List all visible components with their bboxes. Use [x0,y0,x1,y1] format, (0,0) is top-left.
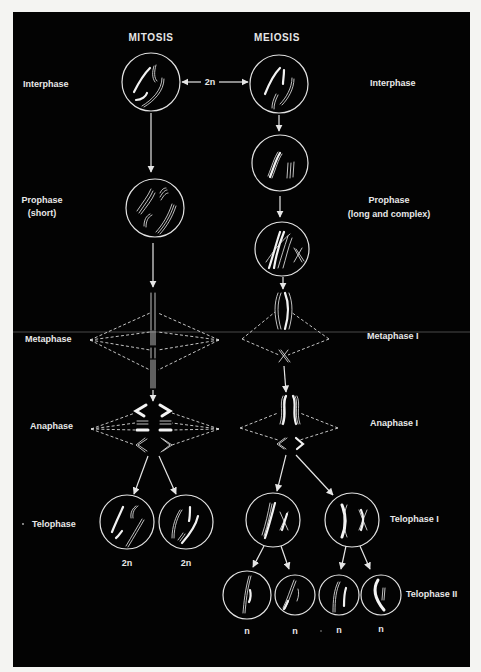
meiosis-interphase-cell [250,55,308,113]
meiosis-daughter-ploidy-3: n [336,625,342,635]
meiosis-telophase-1-cell-1 [246,493,300,547]
label-meiosis-telophase-1: Telophase I [390,514,439,524]
meiosis-title: MEIOSIS [254,32,300,43]
arrow-mitosis-right [159,456,176,494]
mitosis-metaphase-spindle [90,293,219,388]
ploidy-connector: 2n [182,77,248,87]
arrow-mitosis-left [134,456,148,494]
label-meiosis-telophase-2: Telophase II [406,589,457,599]
label-mitosis-telophase: Telophase [32,519,76,529]
mitosis-daughter-ploidy-2: 2n [181,558,192,568]
arrow-t1-a [253,546,264,567]
arrow-meiosis-4 [284,366,286,392]
mitosis-daughter-ploidy-1: 2n [122,558,133,568]
label-mitosis-interphase: Interphase [23,79,69,89]
label-meiosis-metaphase-1: Metaphase I [367,331,419,341]
arrow-t1-b [281,546,289,569]
mitosis-anaphase-spindle [91,405,219,452]
label-meiosis-prophase: Prophase [368,195,409,205]
meiosis-telophase-2-cell-1 [223,571,271,619]
meiosis-telophase-2-cell-4 [361,575,401,615]
meiosis-anaphase-spindle [240,396,338,449]
label-mitosis-prophase: Prophase [21,195,62,205]
mitosis-interphase-cell [122,53,180,111]
ploidy-connector-label: 2n [205,77,216,87]
mitosis-meiosis-diagram: MITOSIS MEIOSIS Interphase Prophase (sho… [0,0,481,672]
meiosis-prophase-cell-2 [255,222,309,276]
meiosis-daughter-ploidy-2: n [292,626,298,636]
mitosis-prophase-cell [126,179,184,237]
speck-dot [320,630,322,632]
arrow-t1-c [341,546,346,569]
meiosis-telophase-2-cell-2 [275,575,315,615]
arrow-meiosis-right [296,455,333,495]
label-mitosis-prophase-note: (short) [28,208,57,218]
label-meiosis-anaphase-1: Anaphase I [370,418,418,428]
meiosis-telophase-2-cell-3 [319,575,359,615]
bullet-dot [22,523,24,525]
meiosis-metaphase-spindle [242,293,329,362]
meiosis-daughter-ploidy-1: n [244,626,250,636]
arrow-meiosis-left [277,455,286,491]
mitosis-telophase-cell-2 [159,495,213,549]
label-meiosis-interphase: Interphase [370,78,416,88]
meiosis-prophase-cell-1 [252,135,308,191]
mitosis-telophase-cell-1 [100,495,154,549]
label-meiosis-prophase-note: (long and complex) [348,209,431,219]
meiosis-telophase-1-cell-2 [325,493,379,547]
label-mitosis-anaphase: Anaphase [30,421,73,431]
meiosis-daughter-ploidy-4: n [378,624,384,634]
mitosis-title: MITOSIS [128,32,173,43]
arrow-t1-d [360,546,370,569]
label-mitosis-metaphase: Metaphase [25,334,72,344]
